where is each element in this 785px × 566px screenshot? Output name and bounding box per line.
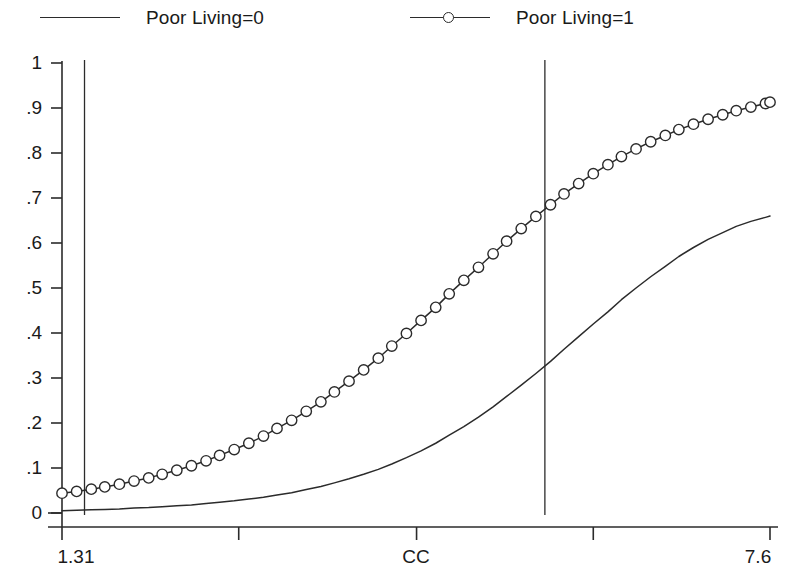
x-tick-label: 1.31 xyxy=(58,546,95,566)
chart-figure: Poor Living=0 Poor Living=1 0.1.2.3.4.5.… xyxy=(0,0,785,566)
x-axis-tick-labels: 1.317.6 xyxy=(0,0,785,566)
x-axis-title: CC xyxy=(402,546,429,566)
x-tick-label: 7.6 xyxy=(745,546,771,566)
